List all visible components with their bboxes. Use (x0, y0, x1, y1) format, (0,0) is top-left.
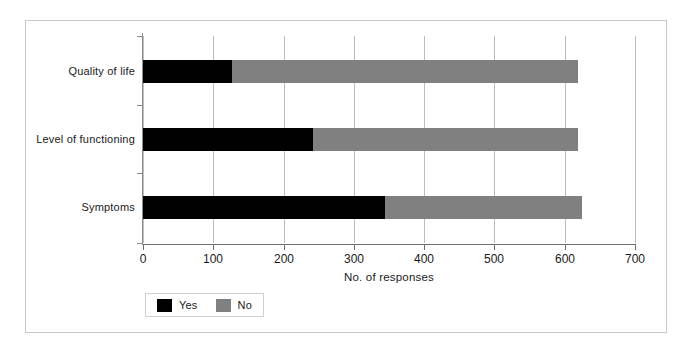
y-axis-tick (137, 243, 143, 244)
bar-segment-no (232, 60, 578, 83)
bar-row-quality-of-life (143, 60, 578, 83)
category-label-quality-of-life: Quality of life (30, 65, 135, 77)
chart-legend: Yes No (145, 293, 264, 317)
x-axis-title: No. of responses (143, 271, 635, 283)
x-axis-tick (424, 245, 425, 250)
legend-swatch-icon (157, 299, 172, 312)
x-tick-label-600: 600 (535, 252, 595, 266)
chart-figure: Quality of life Level of functioning Sym… (0, 0, 689, 349)
x-tick-label-100: 100 (183, 252, 243, 266)
y-axis-tick (137, 36, 143, 37)
legend-label-no: No (238, 299, 252, 311)
legend-entry-no[interactable]: No (216, 299, 252, 312)
bar-row-level-of-functioning (143, 128, 578, 151)
x-axis-tick (143, 245, 144, 250)
x-tick-label-0: 0 (113, 252, 173, 266)
category-label-level-of-functioning: Level of functioning (30, 133, 135, 145)
plot-area (143, 36, 635, 243)
bar-row-symptoms (143, 196, 582, 219)
y-axis-line (142, 33, 143, 245)
y-axis-tick (137, 105, 143, 106)
x-axis-line (143, 244, 636, 245)
x-tick-label-700: 700 (605, 252, 665, 266)
legend-label-yes: Yes (179, 299, 198, 311)
legend-entry-yes[interactable]: Yes (157, 299, 198, 312)
y-axis-tick (137, 173, 143, 174)
x-axis-tick (284, 245, 285, 250)
x-axis-tick (635, 245, 636, 250)
bar-segment-yes (143, 60, 232, 83)
bar-segment-yes (143, 128, 313, 151)
x-tick-label-400: 400 (394, 252, 454, 266)
bar-segment-no (385, 196, 582, 219)
legend-swatch-icon (216, 299, 231, 312)
x-axis-tick (354, 245, 355, 250)
x-axis-tick (565, 245, 566, 250)
x-axis-tick (494, 245, 495, 250)
x-tick-label-500: 500 (464, 252, 524, 266)
x-axis-tick (213, 245, 214, 250)
gridline-700 (635, 36, 636, 243)
category-label-symptoms: Symptoms (30, 201, 135, 213)
bar-segment-no (313, 128, 578, 151)
bar-segment-yes (143, 196, 385, 219)
x-tick-label-300: 300 (324, 252, 384, 266)
x-tick-label-200: 200 (254, 252, 314, 266)
